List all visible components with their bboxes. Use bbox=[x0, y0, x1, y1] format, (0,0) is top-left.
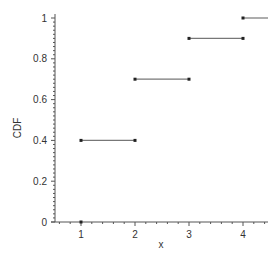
cdf-step-segments bbox=[80, 17, 269, 224]
x-axis-label: x bbox=[159, 239, 164, 250]
x-tick-label: 2 bbox=[132, 229, 138, 240]
cdf-step-endpoint bbox=[134, 139, 137, 142]
cdf-step-point bbox=[188, 37, 191, 40]
y-axis-ticks: 00.20.40.60.81 bbox=[33, 13, 55, 228]
x-tick-label: 1 bbox=[78, 229, 84, 240]
cdf-step-endpoint bbox=[188, 78, 191, 81]
y-axis-label: CDF bbox=[12, 118, 23, 139]
x-tick-label: 4 bbox=[240, 229, 246, 240]
y-tick-label: 0.4 bbox=[33, 135, 47, 146]
y-tick-label: 0.8 bbox=[33, 53, 47, 64]
y-tick-label: 0 bbox=[41, 217, 47, 228]
y-tick-label: 0.2 bbox=[33, 176, 47, 187]
cdf-step-chart: 00.20.40.60.81 1234 x CDF bbox=[0, 0, 280, 258]
cdf-step-point bbox=[80, 221, 83, 224]
y-tick-label: 1 bbox=[41, 13, 47, 24]
cdf-step-point bbox=[80, 139, 83, 142]
x-axis-ticks: 1234 bbox=[59, 222, 264, 240]
cdf-step-point bbox=[242, 17, 245, 20]
x-tick-label: 3 bbox=[186, 229, 192, 240]
cdf-step-point bbox=[134, 78, 137, 81]
cdf-step-endpoint bbox=[242, 37, 245, 40]
y-tick-label: 0.6 bbox=[33, 94, 47, 105]
